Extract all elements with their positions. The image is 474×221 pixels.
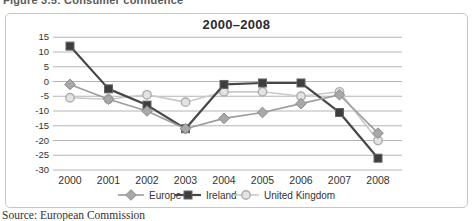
square-marker bbox=[220, 80, 228, 88]
y-tick-label: -30 bbox=[35, 164, 49, 175]
x-tick-label: 2002 bbox=[135, 174, 159, 186]
y-tick-label: -25 bbox=[35, 149, 49, 160]
y-tick-label: 0 bbox=[44, 76, 49, 87]
circle-marker bbox=[143, 91, 151, 99]
y-tick-label: -5 bbox=[41, 90, 49, 101]
circle-marker bbox=[66, 94, 74, 102]
legend-item-united-kingdom: United Kingdom bbox=[233, 190, 335, 201]
y-tick-label: 15 bbox=[38, 31, 49, 42]
x-tick-label: 2006 bbox=[289, 174, 313, 186]
figure-page: Figure 3.5: Consumer confidence 2000–200… bbox=[0, 0, 474, 221]
legend-item-ireland: Ireland bbox=[175, 190, 237, 201]
y-tick-label: -15 bbox=[35, 120, 49, 131]
y-tick-label: -10 bbox=[35, 105, 49, 116]
x-axis-tick-labels: 200020012002200320042005200620072008 bbox=[58, 174, 390, 186]
circle-marker bbox=[181, 98, 189, 106]
x-tick-label: 2008 bbox=[366, 174, 390, 186]
line-chart: 151050-5-10-15-20-25-3020002001200220032… bbox=[6, 14, 467, 207]
square-marker bbox=[336, 108, 344, 116]
x-tick-label: 2004 bbox=[212, 174, 236, 186]
diamond-marker bbox=[257, 107, 268, 118]
legend-label-united-kingdom: United Kingdom bbox=[264, 190, 335, 201]
circle-marker bbox=[242, 191, 250, 199]
y-tick-label: -20 bbox=[35, 135, 49, 146]
diamond-marker bbox=[103, 94, 114, 105]
square-marker bbox=[66, 42, 74, 50]
square-marker bbox=[297, 79, 305, 87]
x-tick-label: 2005 bbox=[251, 174, 275, 186]
legend-item-europe: Europe bbox=[118, 190, 182, 201]
x-tick-label: 2001 bbox=[97, 174, 121, 186]
square-marker bbox=[184, 191, 192, 199]
chart-box: 2000–2008 151050-5-10-15-20-25-302000200… bbox=[5, 13, 468, 208]
legend-label-ireland: Ireland bbox=[206, 190, 237, 201]
y-tick-label: 5 bbox=[44, 61, 49, 72]
x-tick-label: 2007 bbox=[328, 174, 352, 186]
diamond-marker bbox=[219, 113, 230, 124]
y-axis-tick-labels: 151050-5-10-15-20-25-30 bbox=[35, 31, 49, 175]
x-tick-label: 2000 bbox=[58, 174, 82, 186]
source-note: Source: European Commission bbox=[2, 209, 145, 221]
circle-marker bbox=[258, 88, 266, 96]
diamond-marker bbox=[296, 98, 307, 109]
square-marker bbox=[259, 79, 267, 87]
diamond-marker bbox=[126, 190, 137, 201]
figure-caption: Figure 3.5: Consumer confidence bbox=[3, 0, 183, 6]
x-tick-label: 2003 bbox=[174, 174, 198, 186]
square-marker bbox=[374, 154, 382, 162]
diamond-marker bbox=[65, 79, 76, 90]
legend: EuropeIrelandUnited Kingdom bbox=[118, 190, 335, 201]
series-ireland bbox=[66, 42, 382, 162]
y-tick-label: 10 bbox=[38, 46, 49, 57]
square-marker bbox=[105, 85, 113, 93]
